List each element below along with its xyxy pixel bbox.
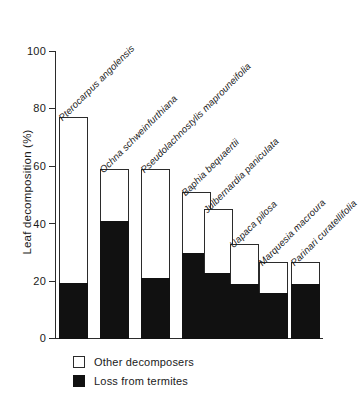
- y-axis-title: Leaf decomposition (%): [21, 92, 33, 292]
- species-label-pterocarpus-angolensis: Pterocarpus angolensis: [56, 43, 136, 123]
- species-label-ochna-schweinfurthiana: Ochna schweinfurthiana: [97, 93, 179, 175]
- legend-label-other-decomposers: Other decomposers: [94, 356, 194, 368]
- bar-segment-termites: [259, 293, 288, 339]
- y-tick-label-60: 60: [33, 161, 46, 172]
- bar-parinari-curatellifolia: [291, 262, 320, 339]
- y-tick-label-0: 0: [40, 333, 46, 344]
- bar-segment-termites: [59, 283, 88, 339]
- bar-segment-termites: [230, 284, 259, 339]
- legend-item-other-decomposers: Other decomposers: [73, 352, 194, 371]
- filled-square-swatch-icon: [73, 375, 85, 387]
- bar-pseudolachnostylis-maprouneifolia: [141, 169, 170, 339]
- y-tick-label-80: 80: [33, 103, 46, 114]
- legend-label-loss-from-termites: Loss from termites: [94, 375, 188, 387]
- bar-segment-termites: [291, 284, 320, 339]
- bar-uapaca-pilosa: [230, 244, 259, 339]
- chart-legend: Other decomposers Loss from termites: [73, 352, 194, 390]
- y-axis-line: [55, 51, 56, 339]
- bar-segment-termites: [204, 273, 233, 339]
- species-label-uapaca-pilosa: Uapaca pilosa: [227, 198, 279, 250]
- bar-marquesia-macroura: [259, 262, 288, 339]
- y-tick-label-20: 20: [33, 276, 46, 287]
- bar-segment-termites: [141, 278, 170, 339]
- open-square-swatch-icon: [73, 356, 85, 368]
- legend-item-loss-from-termites: Loss from termites: [73, 371, 194, 390]
- bar-julbernardia-paniculata: [204, 209, 233, 339]
- y-tick-label-40: 40: [33, 219, 46, 230]
- y-tick-label-100: 100: [27, 46, 46, 57]
- bar-ochna-schweinfurthiana: [100, 169, 129, 339]
- bar-segment-termites: [100, 221, 129, 339]
- bar-pterocarpus-angolensis: [59, 117, 88, 339]
